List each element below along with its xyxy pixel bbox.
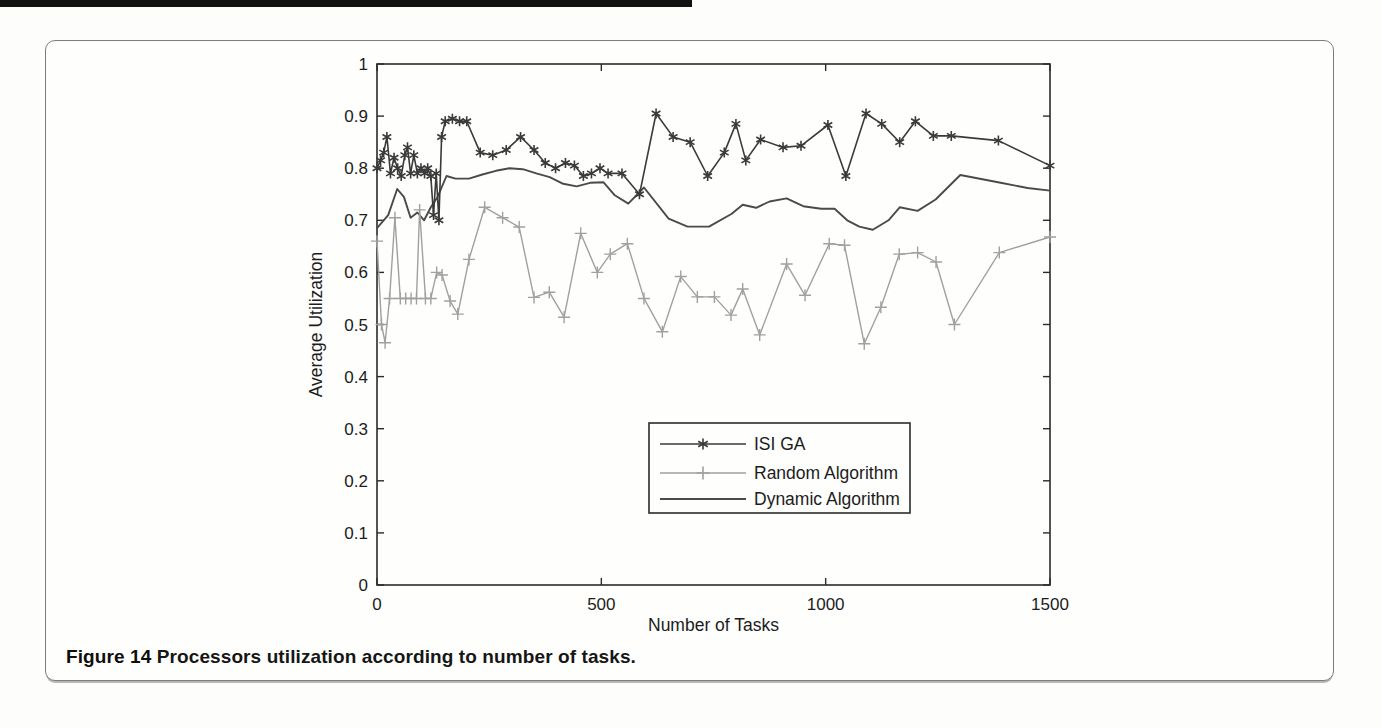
svg-text:0.5: 0.5 [344, 316, 368, 335]
page: { "figure": { "caption_label": "Figure 1… [0, 0, 1382, 728]
svg-text:500: 500 [587, 595, 615, 614]
svg-text:0.4: 0.4 [344, 368, 368, 387]
svg-text:1000: 1000 [807, 595, 845, 614]
svg-text:0: 0 [372, 595, 381, 614]
series-isi-ga [373, 108, 1055, 225]
svg-text:Dynamic Algorithm: Dynamic Algorithm [754, 489, 900, 509]
svg-text:1: 1 [359, 55, 368, 74]
svg-text:0: 0 [359, 576, 368, 595]
svg-text:0.3: 0.3 [344, 420, 368, 439]
legend: ISI GARandom AlgorithmDynamic Algorithm [649, 423, 910, 513]
svg-text:0.8: 0.8 [344, 159, 368, 178]
axes: 05001000150000.10.20.30.40.50.60.70.80.9… [344, 55, 1069, 614]
svg-text:Random Algorithm: Random Algorithm [754, 463, 898, 483]
svg-text:0.9: 0.9 [344, 107, 368, 126]
utilization-chart: 05001000150000.10.20.30.40.50.60.70.80.9… [0, 0, 1382, 728]
svg-text:Average Utilization: Average Utilization [306, 252, 326, 398]
svg-text:Number of Tasks: Number of Tasks [648, 615, 779, 635]
svg-text:0.6: 0.6 [344, 263, 368, 282]
figure-caption-label: Figure 14 [66, 646, 151, 667]
series-dynamic-algorithm [377, 168, 1050, 230]
svg-text:0.2: 0.2 [344, 472, 368, 491]
svg-text:0.1: 0.1 [344, 524, 368, 543]
svg-text:ISI GA: ISI GA [754, 434, 806, 454]
figure-caption-text: Processors utilization according to numb… [151, 646, 636, 667]
svg-text:0.7: 0.7 [344, 211, 368, 230]
figure-caption: Figure 14 Processors utilization accordi… [66, 646, 1166, 668]
svg-text:1500: 1500 [1031, 595, 1069, 614]
